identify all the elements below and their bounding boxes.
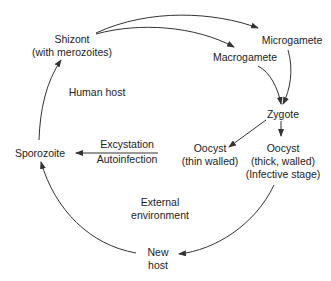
region-external-environment: External environment: [131, 196, 189, 222]
oocyst-thick-stage: (Infective stage): [246, 168, 321, 181]
node-sporozoite: Sporozoite: [15, 147, 65, 160]
node-zygote: Zygote: [267, 108, 299, 121]
arrow-sporozoite-shizont: [39, 60, 61, 140]
arrow-oocyst-newhost: [179, 185, 274, 254]
arrow-shizont-macrogamete: [96, 27, 234, 47]
oocyst-thick-sublabel: (thick, walled): [246, 155, 321, 168]
node-shizont: Shizont (with merozoites): [32, 33, 112, 59]
oocyst-thick-label: Oocyst: [246, 142, 321, 155]
external-label: External: [131, 196, 189, 209]
new-host-label: New: [147, 246, 168, 259]
node-new-host: New host: [147, 246, 168, 272]
arrow-microgamete-zygote: [283, 50, 291, 104]
oocyst-thin-sublabel: (thin walled): [182, 155, 239, 168]
shizont-sublabel: (with merozoites): [32, 46, 112, 59]
node-microgamete: Microgamete: [262, 34, 323, 47]
arrow-shizont-microgamete: [96, 15, 258, 33]
arrow-macrogamete-zygote: [258, 66, 281, 104]
arrow-newhost-sporozoite: [41, 162, 136, 253]
node-macrogamete: Macrogamete: [213, 51, 277, 64]
node-oocyst-thick: Oocyst (thick, walled) (Infective stage): [246, 142, 321, 181]
edge-label-excystation: Excystation: [100, 138, 154, 151]
environment-label: environment: [131, 209, 189, 222]
edge-label-autoinfection: Autoinfection: [97, 153, 158, 166]
new-host-sublabel: host: [147, 259, 168, 272]
node-oocyst-thin: Oocyst (thin walled): [182, 142, 239, 168]
oocyst-thin-label: Oocyst: [182, 142, 239, 155]
shizont-label: Shizont: [32, 33, 112, 46]
region-human-host: Human host: [69, 86, 126, 99]
